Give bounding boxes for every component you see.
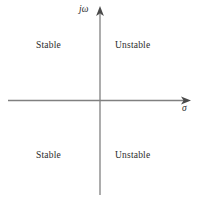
quadrant-label-top-right: Unstable xyxy=(115,40,150,50)
quadrant-label-top-left: Stable xyxy=(36,40,61,50)
axes-group xyxy=(0,0,198,203)
real-axis-label: σ xyxy=(182,103,187,113)
quadrant-label-bottom-left: Stable xyxy=(36,150,61,160)
s-plane-stability-diagram: jω σ Stable Unstable Stable Unstable xyxy=(0,0,198,203)
imaginary-axis-label: jω xyxy=(79,4,88,14)
quadrant-label-bottom-right: Unstable xyxy=(115,150,150,160)
